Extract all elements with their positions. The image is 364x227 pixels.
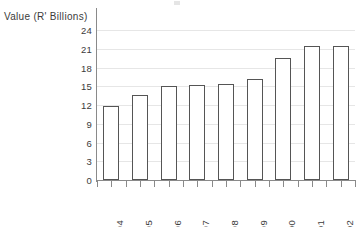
x-axis-tick xyxy=(269,180,270,187)
x-axis-tick xyxy=(169,180,170,187)
y-axis-tick-label: 12 xyxy=(32,101,92,110)
x-axis-tick xyxy=(355,180,356,187)
bar xyxy=(304,46,320,180)
x-axis-tick-label: 1996 xyxy=(173,220,183,227)
x-axis-tick-label: 1998 xyxy=(230,220,240,227)
y-axis-tick-label: 0 xyxy=(32,176,92,185)
x-axis-tick xyxy=(97,180,98,187)
x-axis-tick-label: 2002 xyxy=(345,220,355,227)
y-axis-title: Value (R' Billions) xyxy=(4,11,88,22)
x-axis-tick xyxy=(326,180,327,187)
y-axis-tick-labels: 03691215182124 xyxy=(30,30,92,180)
x-axis-tick-label: 2001 xyxy=(316,220,326,227)
x-axis-tick-labels: 199419951996199719981999200020012002 xyxy=(97,188,355,227)
x-axis-tick-label: 1999 xyxy=(259,220,269,227)
x-axis-tick xyxy=(140,180,141,187)
y-axis-tick-label: 18 xyxy=(32,64,92,73)
bar xyxy=(218,84,234,180)
x-axis-tick xyxy=(126,180,127,187)
x-axis-tick-label: 1997 xyxy=(201,220,211,227)
y-axis-tick-label: 9 xyxy=(32,120,92,129)
bar xyxy=(103,106,119,180)
x-axis-tick xyxy=(283,180,284,187)
x-axis-tick xyxy=(197,180,198,187)
x-axis-tick xyxy=(111,180,112,187)
y-axis-tick-label: 15 xyxy=(32,82,92,91)
x-axis-tick xyxy=(226,180,227,187)
x-axis-tick xyxy=(341,180,342,187)
x-axis-tick-label: 1995 xyxy=(144,220,154,227)
x-axis-tick xyxy=(255,180,256,187)
x-axis-tick xyxy=(240,180,241,187)
bar xyxy=(189,85,205,180)
x-axis-tick-label: 1994 xyxy=(115,220,125,227)
bar xyxy=(333,46,349,180)
x-axis-ticks xyxy=(97,180,355,187)
image-artifact xyxy=(174,1,180,5)
bar xyxy=(247,79,263,180)
y-axis-tick-label: 3 xyxy=(32,157,92,166)
bar xyxy=(275,58,291,180)
bar-chart: Value (R' Billions) 03691215182124 19941… xyxy=(0,0,364,227)
x-axis-tick xyxy=(298,180,299,187)
x-axis-tick xyxy=(212,180,213,187)
x-axis-tick xyxy=(183,180,184,187)
bar xyxy=(161,86,177,180)
y-axis-tick-label: 21 xyxy=(32,45,92,54)
x-axis-tick xyxy=(312,180,313,187)
x-axis-tick xyxy=(154,180,155,187)
plot-area xyxy=(97,30,355,180)
bar xyxy=(132,95,148,180)
y-axis-tick-label: 24 xyxy=(32,26,92,35)
y-axis-tick-label: 6 xyxy=(32,139,92,148)
x-axis-tick-label: 2000 xyxy=(287,220,297,227)
bars-group xyxy=(97,30,355,180)
